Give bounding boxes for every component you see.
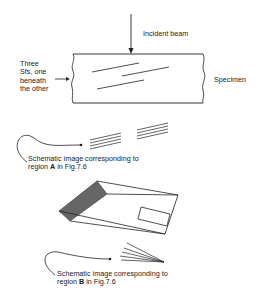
caption-a-line2: region A in Fig.7.6 <box>28 163 139 171</box>
caption-a-post: in Fig.7.6 <box>55 162 87 171</box>
incident-beam-arrow <box>129 14 134 54</box>
caption-b: Schematic image corresponding to region … <box>57 270 168 287</box>
diagram-canvas <box>0 0 260 306</box>
sf-label-line: the other <box>20 85 48 93</box>
caption-b-post: in Fig.7.6 <box>84 277 116 286</box>
region-b-fringe-fan <box>120 243 164 262</box>
caption-a: Schematic image corresponding to region … <box>28 155 139 172</box>
region-a-fringes-left <box>90 133 121 149</box>
specimen-label: Specimen <box>214 76 246 84</box>
region-a-fringes-right <box>137 123 168 139</box>
sf-pointer-arrow <box>55 77 70 81</box>
foil-wedge <box>59 181 178 234</box>
stacking-faults-label: Three Sfs, one beneath the other <box>20 60 48 94</box>
specimen-slab <box>72 54 205 103</box>
caption-b-line2: region B in Fig.7.6 <box>57 278 168 286</box>
stacking-faults <box>92 63 169 89</box>
caption-b-pre: region <box>57 277 79 286</box>
caption-a-pre: region <box>28 162 50 171</box>
incident-beam-label: Incident beam <box>143 30 188 38</box>
